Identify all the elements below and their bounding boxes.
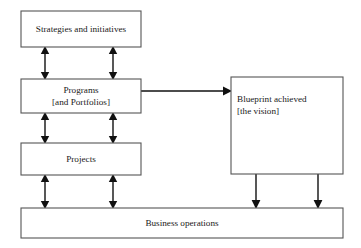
connector-programs-projects-right <box>109 112 117 144</box>
node-label-strategies: Strategies and initiatives <box>36 24 127 34</box>
diagram-canvas: Strategies and initiatives Programs [and… <box>0 0 361 248</box>
node-label-business-operations: Business operations <box>145 218 219 228</box>
connector-programs-projects-left <box>41 112 49 144</box>
connector-programs-blueprint <box>141 86 232 95</box>
node-programs[interactable]: Programs [and Portfolios] <box>21 79 141 113</box>
node-label-programs-line2: [and Portfolios] <box>52 97 110 107</box>
connector-strategies-programs-left <box>41 46 49 80</box>
node-blueprint-achieved[interactable]: Blueprint achieved [the vision] <box>231 77 343 174</box>
node-label-blueprint-line1: Blueprint achieved <box>237 94 307 104</box>
node-projects[interactable]: Projects <box>21 143 141 175</box>
node-strategies-and-initiatives[interactable]: Strategies and initiatives <box>21 11 141 47</box>
node-business-operations[interactable]: Business operations <box>21 208 343 238</box>
connector-projects-operations-right <box>109 174 117 209</box>
node-label-programs-line1: Programs <box>63 85 99 95</box>
node-label-blueprint-line2: [the vision] <box>237 106 279 116</box>
diagram-container: Strategies and initiatives Programs [and… <box>0 0 361 248</box>
connector-blueprint-operations-right <box>314 174 323 209</box>
connector-projects-operations-left <box>41 174 49 209</box>
node-label-projects: Projects <box>66 154 96 164</box>
connector-strategies-programs-right <box>109 46 117 80</box>
connector-blueprint-operations-left <box>252 174 261 209</box>
